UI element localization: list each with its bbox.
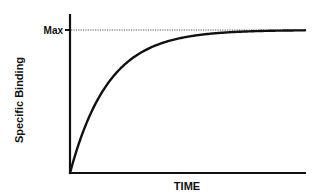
y-axis-label: Specific Binding <box>13 57 25 143</box>
x-axis-label: TIME <box>174 180 200 192</box>
binding-curve <box>70 30 305 173</box>
association-chart: Max Specific Binding TIME <box>0 0 322 195</box>
y-tick-label-max: Max <box>44 25 64 36</box>
